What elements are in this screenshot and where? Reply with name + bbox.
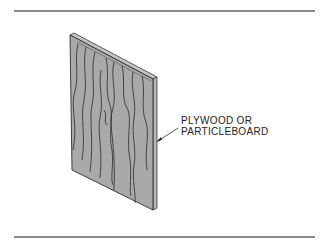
label-line-2: PARTICLEBOARD bbox=[181, 126, 268, 137]
panel-side-edge bbox=[153, 77, 157, 210]
label-line-1: PLYWOOD OR bbox=[181, 115, 268, 126]
material-callout-label: PLYWOOD OR PARTICLEBOARD bbox=[181, 115, 268, 137]
plywood-panel-illustration bbox=[0, 0, 327, 242]
bottom-divider-rule bbox=[14, 236, 315, 238]
